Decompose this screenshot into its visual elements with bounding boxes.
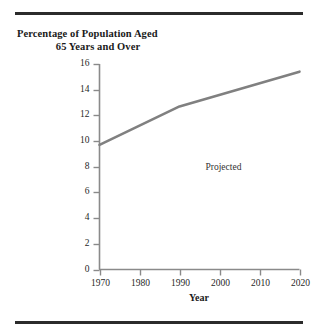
x-tick-label: 1980: [121, 278, 161, 288]
x-tick-label: 2020: [281, 278, 321, 288]
axes-group: [99, 64, 300, 270]
bottom-divider-rule: [15, 321, 303, 324]
y-axis-tick-marks: [94, 65, 100, 271]
x-tick-label: 2000: [201, 278, 241, 288]
figure-canvas: Percentage of Population Aged 65 Years a…: [0, 0, 328, 333]
x-tick-label: 1990: [161, 278, 201, 288]
x-tick-label: 1970: [81, 278, 121, 288]
y-tick-label: 0: [62, 264, 90, 274]
y-tick-label: 6: [62, 186, 90, 196]
y-tick-label: 10: [62, 135, 90, 145]
data-series-group: [100, 72, 300, 145]
x-axis-tick-marks: [101, 270, 301, 276]
x-axis-title: Year: [99, 292, 299, 303]
y-tick-label: 8: [62, 161, 90, 171]
data-line-population-65-plus: [100, 72, 300, 145]
y-tick-label: 14: [62, 84, 90, 94]
annotation-projected: Projected: [206, 162, 242, 172]
y-tick-label: 16: [62, 58, 90, 68]
x-tick-label: 2010: [241, 278, 281, 288]
y-tick-label: 2: [62, 238, 90, 248]
y-tick-label: 4: [62, 212, 90, 222]
y-tick-label: 12: [62, 109, 90, 119]
